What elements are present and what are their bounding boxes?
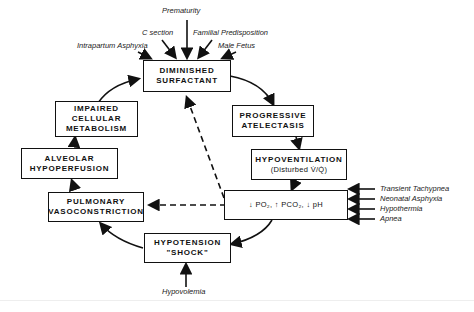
rds-vicious-cycle-diagram: Prematurity C section Familial Predispos… (0, 0, 474, 312)
node-label: METABOLISM (66, 124, 127, 134)
node-hypoventilation: HYPOVENTILATION (Disturbed V̇/Q̇) (251, 149, 347, 180)
node-label: IMPAIRED (74, 104, 119, 114)
node-label: ATELECTASIS (241, 121, 304, 131)
cause-familial-predisposition: Familial Predisposition (193, 28, 268, 37)
node-alveolar-hypoperfusion: ALVEOLAR HYPOPERFUSION (21, 148, 118, 179)
cause-male-fetus: Male Fetus (218, 41, 255, 50)
node-progressive-atelectasis: PROGRESSIVE ATELECTASIS (232, 105, 314, 137)
node-pulmonary-vasoconstriction: PULMONARY VASOCONSTRICTION (48, 192, 144, 222)
cause-hypothermia: Hypothermia (380, 204, 423, 213)
node-impaired-cellular-metabolism: IMPAIRED CELLULAR METABOLISM (55, 101, 138, 137)
node-label: HYPOPERFUSION (30, 164, 110, 174)
node-label: PULMONARY (67, 197, 125, 207)
node-label: HYPOTENSION (154, 238, 221, 248)
node-label: SURFACTANT (156, 76, 218, 86)
node-label: DIMINISHED (159, 66, 214, 76)
cause-prematurity: Prematurity (162, 6, 200, 15)
cause-hypovolemia: Hypovolemia (162, 287, 205, 296)
cause-transient-tachypnea: Transient Tachypnea (380, 184, 449, 193)
cause-neonatal-asphyxia: Neonatal Asphyxia (380, 194, 442, 203)
node-hypotension-shock: HYPOTENSION "SHOCK" (144, 233, 231, 263)
node-label: ALVEOLAR (45, 154, 95, 164)
cause-intrapartum-asphyxia: Intrapartum Asphyxia (77, 41, 148, 50)
node-label: VASOCONSTRICTION (48, 207, 144, 217)
node-label: CELLULAR (72, 114, 122, 124)
node-diminished-surfactant: DIMINISHED SURFACTANT (143, 60, 231, 92)
node-label: HYPOVENTILATION (255, 155, 342, 165)
node-label: ↓ PO₂, ↑ PCO₂, ↓ pH (249, 200, 323, 210)
node-sublabel: (Disturbed V̇/Q̇) (271, 165, 328, 175)
node-blood-gases: ↓ PO₂, ↑ PCO₂, ↓ pH (224, 190, 348, 220)
cause-apnea: Apnea (380, 214, 402, 223)
divider (0, 300, 474, 301)
node-label: PROGRESSIVE (239, 111, 306, 121)
node-label: "SHOCK" (166, 248, 208, 258)
cause-c-section: C section (142, 28, 173, 37)
